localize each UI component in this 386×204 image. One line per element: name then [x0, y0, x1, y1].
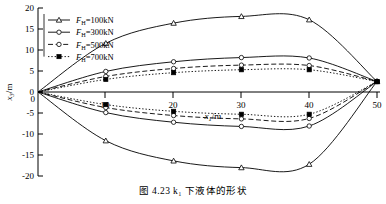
legend-marker-1 — [57, 30, 61, 34]
x-tick-label: 30 — [237, 100, 247, 110]
legend-label-1: FH=300kN — [75, 27, 114, 38]
legend-label-2: FH=500kN — [75, 40, 114, 51]
series-curve-3-upper — [38, 69, 377, 92]
legend-label-3: FH=700kN — [75, 52, 114, 63]
legend-label-0: FH=100kN — [75, 15, 114, 26]
series-curve-0-lower — [38, 82, 377, 172]
x-tick-label: 40 — [305, 100, 315, 110]
series-marker — [171, 60, 175, 64]
y-tick-label: 5 — [30, 66, 35, 76]
x-tick-label: 50 — [373, 100, 383, 110]
series-marker — [375, 79, 379, 83]
series-marker — [307, 162, 312, 167]
series-marker — [239, 55, 243, 59]
figure-container: 20 15 10 5 0 -5 -10 -15 -20 10 — [0, 0, 386, 204]
series-marker — [307, 56, 311, 60]
y-tick-label: -10 — [22, 129, 34, 139]
series-marker — [307, 63, 311, 67]
figure-caption: 图 4.23 k₁ 下液体的形状 — [0, 183, 386, 197]
series-marker — [307, 68, 311, 72]
series-marker — [172, 109, 176, 113]
y-tick-label: 20 — [25, 3, 35, 13]
legend-marker-3 — [57, 55, 61, 59]
series-marker — [103, 138, 108, 143]
series-marker — [239, 117, 243, 121]
series-curve-1-lower — [38, 82, 377, 130]
x-axis-ticks — [105, 92, 377, 98]
y-tick-label: -5 — [27, 108, 35, 118]
series-marker — [171, 120, 175, 124]
series-curve-2-upper — [38, 64, 377, 92]
y-tick-label: 15 — [25, 24, 35, 34]
series-marker — [307, 124, 311, 128]
x-axis-title: x1/m — [204, 111, 222, 122]
series-marker — [172, 71, 176, 75]
chart-curves-group — [38, 14, 380, 172]
series-marker — [104, 103, 108, 107]
y-tick-label: -15 — [22, 150, 34, 160]
y-tick-label: -20 — [22, 171, 34, 181]
series-marker — [239, 124, 243, 128]
legend-marker-2 — [57, 42, 61, 46]
series-marker — [307, 17, 312, 22]
series-marker — [104, 110, 108, 114]
chart-legend: FH=100kNFH=300kNFH=500kNFH=700kN — [44, 14, 114, 63]
series-marker — [239, 68, 243, 72]
series-marker — [239, 112, 243, 116]
series-marker — [307, 112, 311, 116]
series-marker — [104, 69, 108, 73]
series-marker — [171, 113, 175, 117]
series-marker — [239, 63, 243, 67]
series-marker — [307, 116, 311, 120]
chart-svg: 20 15 10 5 0 -5 -10 -15 -20 10 — [0, 0, 386, 182]
y-tick-label: 10 — [25, 45, 35, 55]
chart-plot-area: 20 15 10 5 0 -5 -10 -15 -20 10 — [0, 0, 386, 182]
origin-label: 0 — [31, 94, 36, 104]
series-marker — [104, 77, 108, 81]
x-tick-label: 20 — [169, 100, 179, 110]
series-marker — [171, 66, 175, 70]
y-axis-title: x3/m — [4, 84, 15, 102]
y-axis-tick-labels: 20 15 10 5 0 -5 -10 -15 -20 — [22, 3, 35, 181]
